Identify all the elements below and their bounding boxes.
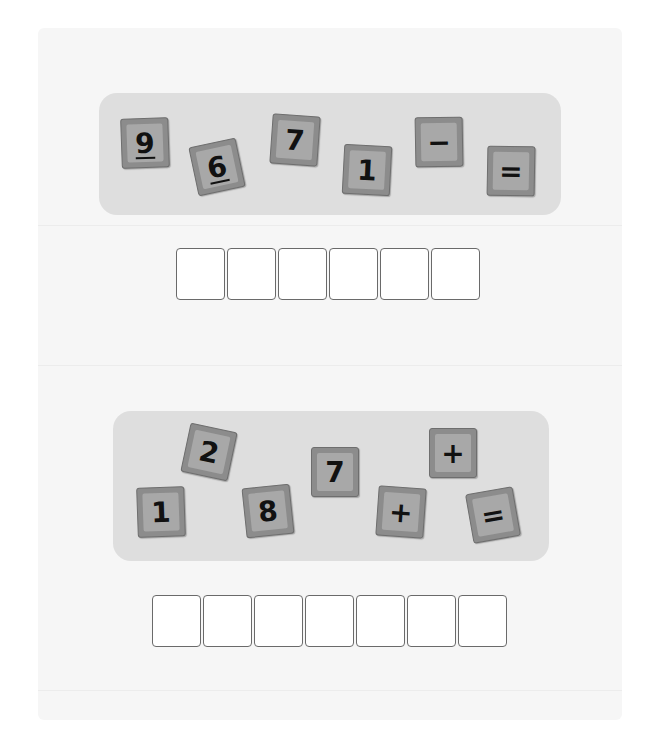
answer-cell[interactable]	[227, 248, 276, 300]
tile-face: 6	[195, 145, 238, 190]
answer-row-2	[152, 595, 507, 647]
tile-face: 1	[142, 492, 179, 531]
tile-plus[interactable]: +	[375, 485, 426, 538]
tile-face: +	[382, 492, 421, 532]
answer-cell[interactable]	[329, 248, 378, 300]
answer-cell[interactable]	[152, 595, 201, 647]
tile-face: =	[493, 152, 530, 191]
tile-label: 8	[257, 494, 280, 529]
divider	[38, 690, 622, 691]
tile-face: +	[435, 434, 471, 472]
tile-face: 2	[187, 430, 230, 475]
tile-1[interactable]: 1	[136, 486, 186, 538]
answer-cell[interactable]	[431, 248, 480, 300]
answer-cell[interactable]	[407, 595, 456, 647]
tile-label: +	[441, 437, 464, 470]
tile-equals[interactable]: =	[465, 486, 521, 544]
answer-cell[interactable]	[176, 248, 225, 300]
answer-cell[interactable]	[254, 595, 303, 647]
tile-8[interactable]: 8	[242, 484, 295, 539]
tile-minus[interactable]: −	[415, 117, 464, 168]
tile-face: 9	[126, 123, 163, 162]
tile-label: 1	[151, 495, 172, 529]
tile-9[interactable]: 9	[120, 117, 170, 169]
tile-6[interactable]: 6	[188, 138, 245, 197]
tile-plus[interactable]: +	[429, 428, 477, 478]
divider	[38, 225, 622, 226]
tile-label: 6	[204, 149, 230, 185]
tile-label: 7	[325, 456, 344, 489]
tile-face: 7	[317, 453, 353, 491]
tile-label: =	[479, 497, 508, 534]
tile-equals[interactable]: =	[487, 146, 536, 197]
answer-row-1	[176, 248, 480, 300]
answer-cell[interactable]	[458, 595, 507, 647]
answer-cell[interactable]	[380, 248, 429, 300]
tile-label: +	[388, 495, 414, 530]
divider	[38, 365, 622, 366]
answer-cell[interactable]	[356, 595, 405, 647]
tile-2[interactable]: 2	[180, 423, 237, 482]
tile-label: 1	[356, 153, 377, 187]
tile-face: 8	[248, 490, 288, 532]
tile-label: 7	[284, 123, 306, 157]
answer-cell[interactable]	[305, 595, 354, 647]
tile-label: 9	[135, 126, 156, 160]
tile-7[interactable]: 7	[269, 113, 320, 166]
tile-label: 2	[196, 434, 222, 470]
answer-cell[interactable]	[278, 248, 327, 300]
tile-7[interactable]: 7	[311, 447, 359, 497]
answer-cell[interactable]	[203, 595, 252, 647]
tile-label: =	[499, 154, 523, 187]
tile-face: 1	[348, 150, 386, 190]
tile-face: =	[472, 493, 514, 537]
tile-label: −	[427, 125, 451, 158]
tile-face: 7	[276, 120, 315, 160]
tile-face: −	[421, 123, 458, 162]
tile-1[interactable]: 1	[342, 144, 393, 196]
